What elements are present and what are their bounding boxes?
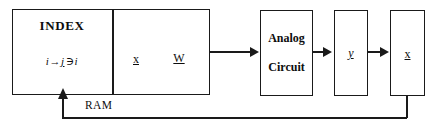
memory-vector-x: x	[126, 53, 146, 65]
formula-relation-icon: ∋	[66, 55, 75, 67]
connector-ram-to-analog	[210, 51, 251, 53]
output-y-vector: y	[334, 47, 368, 59]
feedback-line-vertical-right	[406, 96, 408, 118]
index-block-formula: i→j ∋i	[12, 56, 112, 67]
diagram-canvas: INDEX i→j ∋i x W Analog Circuit y x RAM	[0, 0, 433, 128]
arrowhead-ram-to-analog-icon	[250, 47, 259, 57]
analog-circuit-block	[260, 10, 313, 96]
memory-matrix-w: W	[168, 52, 190, 64]
feedback-line-horizontal	[62, 117, 407, 119]
formula-to: j	[61, 55, 65, 67]
ram-block-divider	[112, 9, 114, 95]
feedback-line-vertical-left	[62, 96, 64, 118]
formula-arrow-icon: →	[49, 55, 61, 67]
ram-path-label: RAM	[85, 100, 145, 112]
arrowhead-feedback-to-index-icon	[58, 88, 68, 99]
analog-circuit-line1: Analog	[260, 32, 313, 44]
arrowhead-analog-to-y-icon	[323, 47, 332, 57]
output-x-vector: x	[390, 48, 425, 60]
formula-end: i	[75, 55, 79, 67]
arrowhead-y-to-x-icon	[380, 47, 389, 57]
index-block-title: INDEX	[12, 19, 112, 32]
analog-circuit-line2: Circuit	[260, 61, 313, 73]
